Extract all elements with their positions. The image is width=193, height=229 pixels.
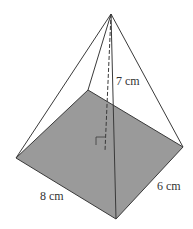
length-label: 8 cm [40,189,64,203]
edge-apex-back [88,14,111,90]
width-label: 6 cm [157,179,181,193]
height-label: 7 cm [116,74,140,88]
pyramid-diagram: 7 cm 8 cm 6 cm [0,0,193,229]
